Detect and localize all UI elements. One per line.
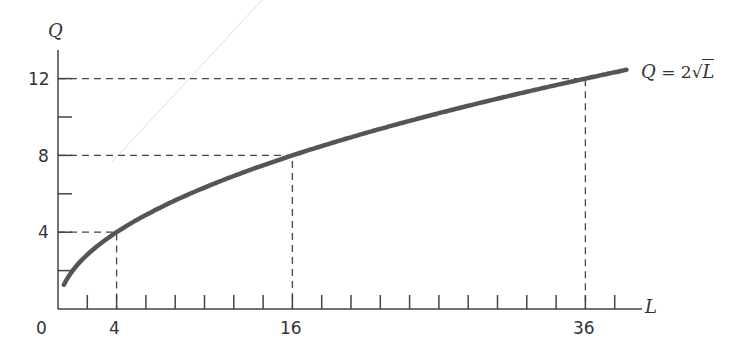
x-ticks — [87, 295, 614, 309]
dashed-guides — [58, 79, 585, 309]
equation-label: Q = 2√L — [641, 63, 714, 81]
sqrt-symbol: √ — [692, 62, 703, 82]
y-tick-label-4: 4 — [38, 224, 49, 241]
x-tick-label-36: 36 — [573, 320, 595, 337]
y-tick-label-8: 8 — [38, 148, 49, 165]
origin-label: 0 — [36, 320, 47, 337]
artifact-line — [112, 0, 262, 162]
eq-q: Q — [641, 61, 656, 82]
y-ticks — [58, 79, 72, 271]
eq-l: L — [702, 59, 714, 82]
x-tick-label-4: 4 — [109, 320, 120, 337]
y-tick-label-12: 12 — [28, 71, 50, 88]
y-axis-label: Q — [48, 22, 63, 40]
x-tick-label-16: 16 — [280, 320, 302, 337]
eq-mid: = 2 — [656, 62, 692, 82]
x-axis-label: L — [645, 298, 657, 316]
chart-canvas — [0, 0, 739, 355]
curve-q-2-sqrt-l — [64, 70, 627, 285]
